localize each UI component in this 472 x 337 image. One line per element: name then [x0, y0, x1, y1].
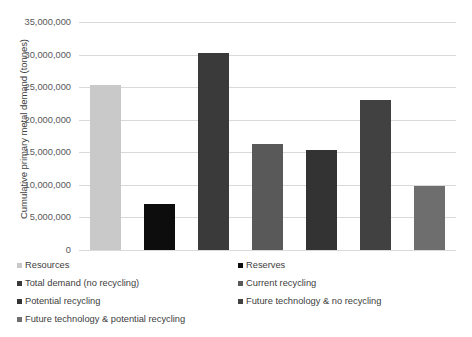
- legend-item[interactable]: Potential recycling: [17, 295, 100, 307]
- legend-item-label: Current recycling: [246, 277, 316, 289]
- plot-area: [79, 22, 456, 250]
- legend-item-label: Potential recycling: [25, 295, 100, 307]
- legend-item[interactable]: Future technology & no recycling: [238, 295, 381, 307]
- legend-item[interactable]: Total demand (no recycling): [17, 277, 139, 289]
- y-axis-tick-label: 10,000,000: [24, 180, 71, 190]
- y-axis-tick-label: 20,000,000: [24, 115, 71, 125]
- legend-item[interactable]: Resources: [17, 259, 69, 271]
- legend-item[interactable]: Reserves: [238, 259, 285, 271]
- y-axis-tick-label: 15,000,000: [24, 147, 71, 157]
- bar-chart: Cumulative primary metal demand (tonnes)…: [0, 0, 472, 337]
- bar-potential-recycling[interactable]: [306, 150, 337, 250]
- legend-swatch-icon: [238, 299, 243, 304]
- bar-current-recycling[interactable]: [252, 144, 283, 250]
- legend-swatch-icon: [17, 299, 22, 304]
- y-axis-tick-label: 5,000,000: [30, 212, 71, 222]
- bars-layer: [79, 22, 456, 250]
- legend-item-label: Future technology & no recycling: [246, 295, 381, 307]
- bar-future-technology-no-recycling[interactable]: [360, 100, 391, 250]
- legend-swatch-icon: [17, 263, 22, 268]
- legend-swatch-icon: [238, 263, 243, 268]
- gridline: [79, 250, 456, 251]
- legend-item[interactable]: Future technology & potential recycling: [17, 313, 185, 325]
- y-axis-tick-label: 35,000,000: [24, 17, 71, 27]
- legend-swatch-icon: [238, 281, 243, 286]
- y-axis-tick-label: 30,000,000: [24, 50, 71, 60]
- bar-reserves[interactable]: [144, 204, 175, 250]
- legend-item-label: Total demand (no recycling): [25, 277, 139, 289]
- legend: ResourcesTotal demand (no recycling)Pote…: [17, 259, 463, 331]
- y-axis-tick-label: 25,000,000: [24, 82, 71, 92]
- legend-item-label: Reserves: [246, 259, 285, 271]
- legend-swatch-icon: [17, 281, 22, 286]
- legend-item-label: Resources: [25, 259, 69, 271]
- bar-future-technology-potential-recycling[interactable]: [414, 186, 445, 250]
- legend-swatch-icon: [17, 317, 22, 322]
- bar-total-demand-no-recycling[interactable]: [198, 53, 229, 250]
- legend-item[interactable]: Current recycling: [238, 277, 316, 289]
- bar-resources[interactable]: [90, 85, 121, 250]
- y-axis-tick-label: 0: [66, 245, 71, 255]
- legend-item-label: Future technology & potential recycling: [25, 313, 185, 325]
